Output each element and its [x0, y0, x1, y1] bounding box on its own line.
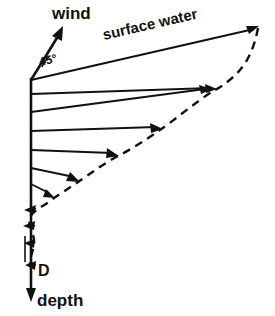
velocity-vector-6-arrowhead	[66, 172, 80, 182]
velocity-vector-9-line	[31, 225, 35, 226]
wind-label: wind	[51, 4, 91, 23]
depth-axis-arrowhead	[26, 288, 36, 302]
depth-axis-label: depth	[37, 291, 83, 310]
angle-label: 45°	[38, 51, 59, 69]
ekman-spiral-envelope	[29, 28, 258, 266]
velocity-vector-5-line	[31, 150, 112, 153]
ekman-spiral-figure: wind surface water 45° D depth	[0, 0, 275, 316]
velocity-vector-11-line	[31, 264, 36, 265]
velocity-vector-8-line	[31, 208, 36, 209]
velocity-vector-6-line	[31, 168, 74, 177]
velocity-vector-1-line	[31, 29, 254, 80]
velocity-vector-4-line	[31, 127, 156, 131]
depth-marker-label: D	[38, 262, 50, 279]
wind-vector-arrowhead	[52, 26, 63, 41]
surface-water-label: surface water	[101, 5, 199, 43]
